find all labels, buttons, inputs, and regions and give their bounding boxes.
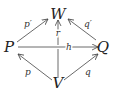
node-P: P [3,38,15,56]
edge-p [18,54,52,80]
label-q-prime: q′ [84,19,92,29]
edge-p-prime [17,19,48,42]
node-Q: Q [97,38,109,56]
commutative-diagram: W P Q V p′ q′ p q h r [0,0,118,95]
label-r: r [56,28,61,38]
edge-q [64,54,98,80]
node-W: W [50,5,67,23]
label-p-prime: p′ [24,19,32,29]
label-q: q [85,67,91,77]
label-p: p [25,67,31,77]
node-V: V [53,74,66,92]
label-h: h [66,42,72,52]
